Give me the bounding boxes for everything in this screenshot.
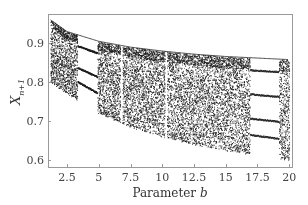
y-tick-label: 0.9: [24, 37, 44, 50]
x-tick-mark: [67, 164, 68, 167]
y-tick-mark: [48, 160, 51, 161]
x-tick-mark: [162, 164, 163, 167]
y-axis-label-subscript: n+1: [17, 79, 26, 96]
x-tick-label: 7.5: [122, 171, 140, 184]
x-tick-label: 12.5: [182, 171, 207, 184]
x-tick-label: 5: [95, 171, 102, 184]
plot-frame: [48, 14, 293, 168]
x-axis-label-variable: b: [200, 186, 208, 200]
y-axis-label-text: X: [8, 96, 23, 105]
y-axis-label: Xn+1: [8, 79, 26, 105]
y-tick-mark: [48, 121, 51, 122]
bifurcation-chart: 2.557.51012.51517.520 0.60.70.80.9 Param…: [0, 0, 308, 205]
x-axis-label-text: Parameter: [132, 186, 196, 200]
y-tick-mark: [48, 82, 51, 83]
x-tick-mark: [99, 164, 100, 167]
x-tick-label: 15: [219, 171, 233, 184]
x-tick-mark: [131, 164, 132, 167]
y-tick-label: 0.8: [24, 76, 44, 89]
x-tick-mark: [257, 164, 258, 167]
y-tick-label: 0.7: [24, 115, 44, 128]
y-tick-mark: [48, 43, 51, 44]
x-tick-mark: [289, 164, 290, 167]
x-tick-label: 20: [282, 171, 296, 184]
x-tick-label: 2.5: [58, 171, 76, 184]
x-axis-label: Parameter b: [132, 186, 207, 200]
x-tick-mark: [226, 164, 227, 167]
y-tick-label: 0.6: [24, 154, 44, 167]
x-tick-mark: [194, 164, 195, 167]
x-tick-label: 10: [155, 171, 169, 184]
x-tick-label: 17.5: [245, 171, 270, 184]
